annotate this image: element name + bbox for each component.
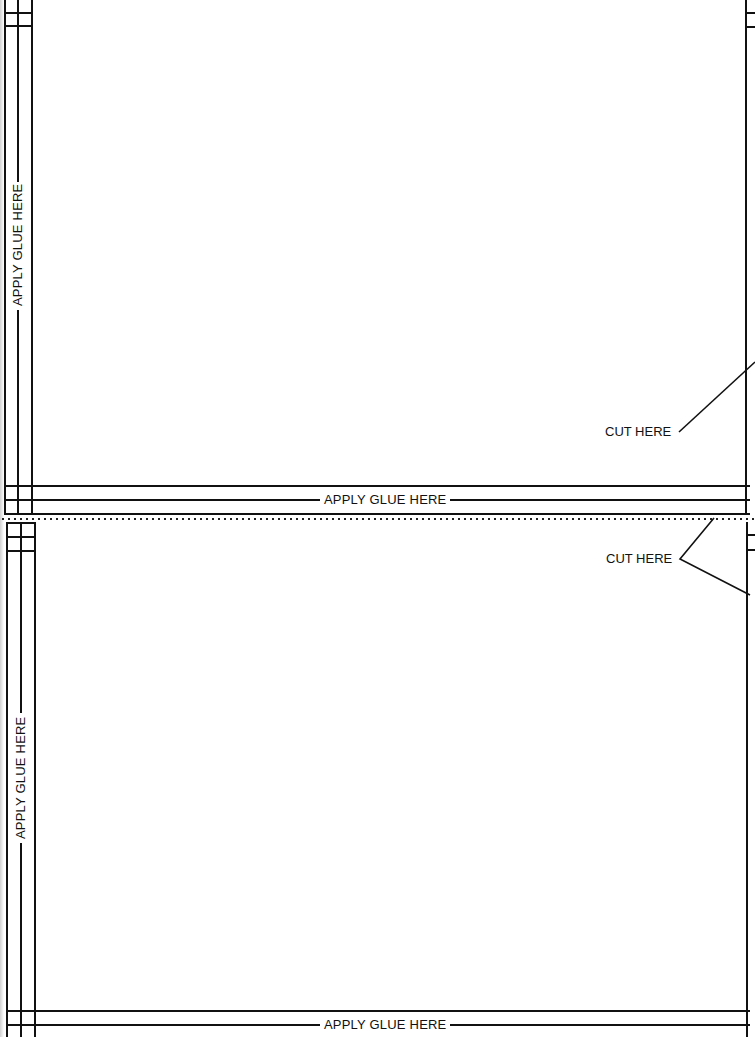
bottom-corner-bar-2 [6,550,36,552]
bottom-right-tick-2 [746,549,755,551]
bottom-cut-leader [680,518,750,595]
top-corner-bar-1 [4,12,33,14]
bottom-bottom-glue-label: APPLY GLUE HERE [320,1018,450,1032]
top-left-glue-label: APPLY GLUE HERE [11,180,25,310]
top-left-strip-line-1 [4,0,6,514]
bottom-corner-top-bar [6,522,36,524]
bottom-bottom-strip-line-1 [6,1010,750,1012]
top-bottom-glue-label: APPLY GLUE HERE [320,493,450,507]
bottom-left-glue-dash-upper [20,684,22,696]
bottom-left-strip-line-3 [34,522,36,1037]
top-right-tick-2 [745,26,755,28]
top-cut-here-label: CUT HERE [605,425,671,439]
dotted-cut-line [0,518,755,520]
bottom-corner-bar-1 [6,536,36,538]
top-right-edge-line [745,0,747,514]
bottom-right-tick-1 [746,534,755,536]
top-left-glue-dash-lower [17,318,19,330]
bottom-left-glue-dash-lower [20,843,22,853]
top-left-glue-dash-upper [17,170,19,182]
top-right-tick-1 [745,12,755,14]
top-bottom-strip-line-1 [4,485,750,487]
top-left-strip-line-3 [31,0,33,514]
bottom-cut-here-label: CUT HERE [606,552,672,566]
bottom-left-glue-label: APPLY GLUE HERE [14,713,28,843]
bottom-right-edge-line [746,522,748,1037]
bottom-left-strip-line-1 [6,522,8,1037]
top-corner-bar-2 [4,25,33,27]
printable-template-sheet: APPLY GLUE HERE APPLY GLUE HERE CUT HERE… [0,0,755,1037]
top-cut-leader [679,362,755,432]
top-bottom-strip-line-3 [4,513,750,515]
